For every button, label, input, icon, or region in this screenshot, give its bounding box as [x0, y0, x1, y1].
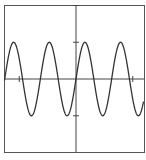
- sine-plot: [0, 0, 146, 160]
